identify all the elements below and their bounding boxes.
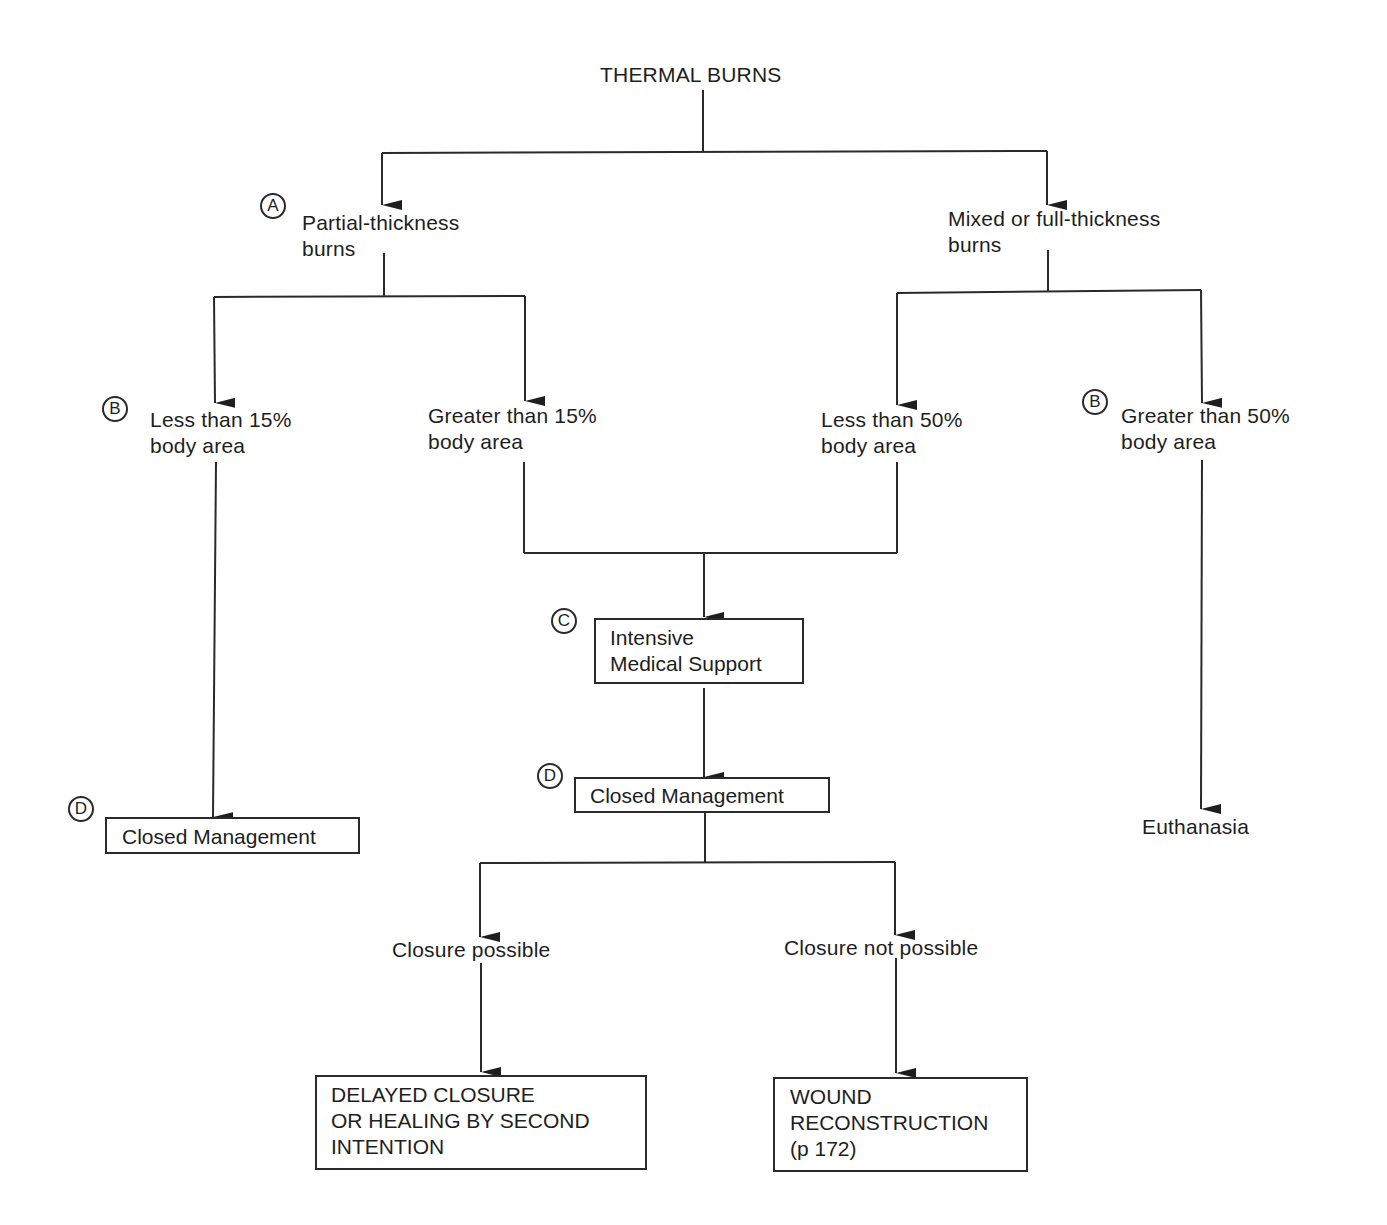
node-line: OR HEALING BY SECOND — [331, 1109, 590, 1132]
node-line: Less than 15% — [150, 408, 292, 431]
connector-lines — [0, 0, 1387, 1225]
node-line: Medical Support — [610, 652, 762, 675]
annotation-badge-b: B — [1082, 389, 1108, 415]
box-text: WOUND RECONSTRUCTION (p 172) — [790, 1084, 988, 1162]
annotation-badge-d: D — [537, 763, 563, 789]
node-less-than-15-percent: Less than 15% body area — [150, 407, 292, 459]
node-line: Intensive — [610, 626, 694, 649]
node-line: body area — [821, 434, 916, 457]
box-closed-management-center: Closed Management — [574, 777, 830, 813]
node-line: Partial-thickness — [302, 211, 459, 234]
node-euthanasia: Euthanasia — [1142, 814, 1249, 840]
node-line: Greater than 50% — [1121, 404, 1290, 427]
node-closure-not-possible: Closure not possible — [784, 935, 978, 961]
node-line: body area — [428, 430, 523, 453]
node-less-than-50-percent: Less than 50% body area — [821, 407, 963, 459]
box-closed-management-left: Closed Management — [105, 817, 360, 854]
box-delayed-closure: DELAYED CLOSURE OR HEALING BY SECOND INT… — [315, 1075, 647, 1170]
box-text: Intensive Medical Support — [610, 625, 762, 677]
node-line: WOUND — [790, 1085, 872, 1108]
node-line: (p 172) — [790, 1137, 857, 1160]
node-greater-than-50-percent: Greater than 50% body area — [1121, 403, 1290, 455]
node-line: Mixed or full-thickness — [948, 207, 1160, 230]
box-text: DELAYED CLOSURE OR HEALING BY SECOND INT… — [331, 1082, 590, 1160]
node-greater-than-15-percent: Greater than 15% body area — [428, 403, 597, 455]
annotation-badge-c: C — [551, 608, 577, 634]
node-line: body area — [150, 434, 245, 457]
node-line: burns — [948, 233, 1002, 256]
node-closure-possible: Closure possible — [392, 937, 550, 963]
node-line: INTENTION — [331, 1135, 444, 1158]
annotation-badge-a: A — [260, 193, 286, 219]
node-line: burns — [302, 237, 356, 260]
node-partial-thickness-burns: Partial-thickness burns — [302, 210, 459, 262]
box-intensive-medical-support: Intensive Medical Support — [594, 618, 804, 684]
node-mixed-full-thickness-burns: Mixed or full-thickness burns — [948, 206, 1160, 258]
node-line: Less than 50% — [821, 408, 963, 431]
box-text: Closed Management — [122, 824, 316, 850]
node-line: body area — [1121, 430, 1216, 453]
node-line: RECONSTRUCTION — [790, 1111, 988, 1134]
box-wound-reconstruction: WOUND RECONSTRUCTION (p 172) — [773, 1077, 1028, 1172]
node-line: Greater than 15% — [428, 404, 597, 427]
annotation-badge-b: B — [102, 396, 128, 422]
box-text: Closed Management — [590, 783, 784, 809]
root-node-thermal-burns: THERMAL BURNS — [600, 62, 782, 88]
node-line: DELAYED CLOSURE — [331, 1083, 535, 1106]
annotation-badge-d: D — [68, 796, 94, 822]
